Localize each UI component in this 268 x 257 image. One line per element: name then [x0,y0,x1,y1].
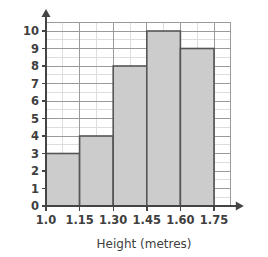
x-axis-tick-label: 1.60 [166,213,194,227]
x-axis-tick-label: 1.45 [133,213,161,227]
x-axis-tick-label: 1.30 [99,213,127,227]
bar [46,154,80,207]
bar [113,66,147,206]
bar [180,49,214,207]
y-axis-tick-label: 1 [31,182,39,196]
histogram-chart: 012345678910 1.01.151.301.451.601.75 Fre… [0,0,268,257]
y-axis-tick-label: 4 [31,129,39,143]
bar [147,31,181,206]
y-axis-tick-label: 6 [31,94,39,108]
x-axis-title: Height (metres) [97,237,192,251]
y-axis-tick-label: 0 [31,199,39,213]
x-axis-tick-labels: 1.01.151.301.451.601.75 [36,213,228,227]
x-axis-tick-label: 1.15 [65,213,93,227]
y-axis-tick-label: 2 [31,164,39,178]
y-axis-tick-label: 9 [31,42,39,56]
y-axis-tick-label: 10 [23,24,39,38]
y-axis-tick-label: 3 [31,147,39,161]
chart-canvas: 012345678910 1.01.151.301.451.601.75 Fre… [0,0,268,257]
x-axis-tick-label: 1.0 [36,213,56,227]
bar [80,136,114,206]
y-axis-tick-label: 5 [31,112,39,126]
y-axis-tick-label: 7 [31,77,39,91]
y-axis-tick-label: 8 [31,59,39,73]
x-axis-tick-label: 1.75 [200,213,228,227]
